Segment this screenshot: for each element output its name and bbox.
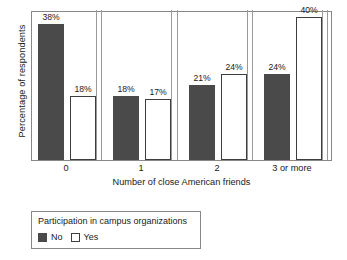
plot-area: 38%18%18%17%21%24%24%40% [31,11,332,161]
legend-title: Participation in campus organizations [38,216,187,226]
x-axis-tick [96,10,97,160]
bar-value-label: 24% [226,62,243,72]
bar-value-label: 38% [43,12,60,22]
y-axis-title: Percentage of respondents [17,1,27,161]
bar-group-0-no: 38% [38,10,64,160]
bar-group-1-yes: 17% [145,10,171,160]
x-tick-label-0: 0 [63,163,68,173]
x-tick-label-3-or-more: 3 or more [272,163,311,173]
bar [38,24,64,160]
bar-group-0-yes: 18% [70,10,96,160]
x-axis-tick [247,10,248,160]
x-axis-tick [101,10,102,160]
bar-chart-figure: Percentage of respondents 38%18%18%17%21… [0,0,347,260]
bar [113,96,139,160]
bar-value-label: 18% [118,84,135,94]
x-tick-label-1: 1 [138,163,143,173]
bar-group-3-or-more-no: 24% [264,10,290,160]
bar [221,74,247,160]
legend: Participation in campus organizations No… [31,211,201,249]
x-axis-tick [177,10,178,160]
bar-value-label: 24% [269,62,286,72]
x-axis-tick [252,10,253,160]
bar-group-2-yes: 24% [221,10,247,160]
bar-value-label: 21% [194,73,211,83]
bar [264,74,290,160]
legend-entry-yes[interactable]: Yes [71,232,99,242]
legend-label: No [51,232,63,242]
bar-group-1-no: 18% [113,10,139,160]
bar-value-label: 17% [150,87,167,97]
legend-entries: NoYes [38,232,98,242]
bar [296,17,322,160]
x-axis-tick [327,10,328,160]
bar-value-label: 40% [301,5,318,15]
bar [145,99,171,160]
bar-value-label: 18% [75,84,92,94]
x-tick-label-2: 2 [214,163,219,173]
x-axis-tick [171,10,172,160]
bar-group-3-or-more-yes: 40% [296,10,322,160]
x-axis-title: Number of close American friends [31,177,332,187]
bar [189,85,215,160]
legend-entry-no[interactable]: No [38,232,63,242]
bar-group-2-no: 21% [189,10,215,160]
x-axis-tick [322,10,323,160]
bar [70,96,96,160]
plot-inner: 38%18%18%17%21%24%24%40% [32,12,331,160]
legend-swatch-no [38,233,47,242]
legend-label: Yes [84,232,99,242]
legend-swatch-yes [71,233,80,242]
